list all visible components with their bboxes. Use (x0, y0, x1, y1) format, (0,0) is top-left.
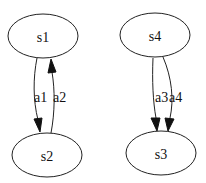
edge-path (153, 58, 156, 118)
node-label-s1: s1 (37, 30, 49, 45)
edge-path (163, 57, 172, 118)
edge-label-a3: a3 (155, 90, 168, 105)
edge-label-a2: a2 (53, 90, 66, 105)
arrowhead-icon (165, 118, 174, 131)
edge-label-a1: a1 (34, 90, 47, 105)
arrowhead-icon (34, 118, 42, 132)
node-label-s4: s4 (149, 29, 161, 44)
arrowhead-icon (48, 59, 56, 73)
node-label-s3: s3 (155, 147, 167, 162)
edge-s1-s2-a1: a1 (34, 58, 47, 132)
edge-s2-s1-a2: a2 (48, 59, 66, 133)
node-s2[interactable]: s2 (12, 133, 82, 177)
arrowhead-icon (151, 118, 160, 131)
node-s4[interactable]: s4 (120, 13, 190, 57)
state-diagram: a1 a2 a3 a4 s1 s2 s4 s3 (0, 0, 206, 183)
node-label-s2: s2 (41, 149, 53, 164)
node-s1[interactable]: s1 (8, 14, 78, 58)
node-s3[interactable]: s3 (126, 131, 196, 175)
edge-label-a4: a4 (169, 90, 182, 105)
